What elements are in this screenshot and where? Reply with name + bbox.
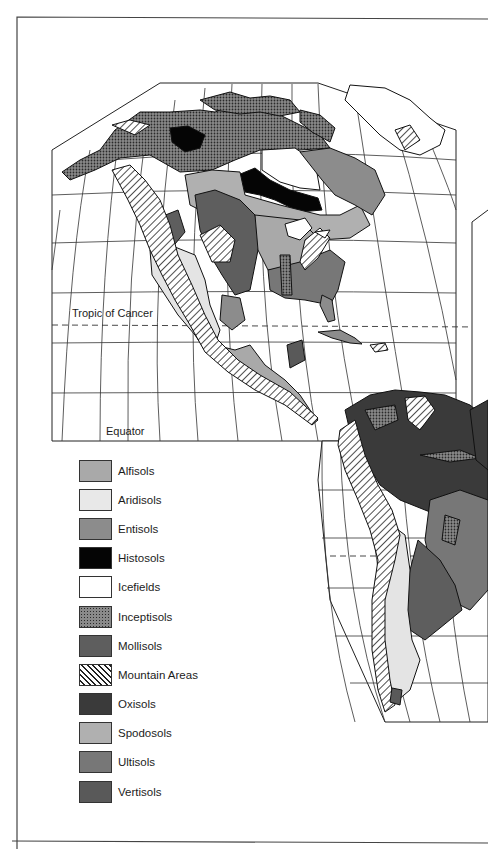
legend-item-aridisols: Aridisols (79, 485, 259, 514)
inceptisols-swatch (79, 606, 112, 628)
aridisols-swatch (79, 489, 112, 511)
legend-item-histosols: Histosols (79, 544, 259, 573)
legend-label: Mollisols (118, 640, 162, 652)
legend-item-alfisols: Alfisols (79, 456, 259, 485)
atlantic-panel-edge (472, 210, 488, 430)
legend-item-entisols: Entisols (79, 514, 259, 543)
legend-label: Spodosols (118, 727, 172, 739)
entisols-swatch (79, 518, 112, 540)
legend-item-icefields: Icefields (79, 573, 259, 602)
legend-label: Alfisols (118, 465, 154, 477)
icefields-swatch (79, 576, 112, 598)
legend-item-ultisols: Ultisols (79, 748, 259, 777)
vertisols-swatch (79, 781, 112, 803)
legend-item-mollisols: Mollisols (79, 631, 259, 660)
legend-label: Icefields (118, 581, 160, 593)
alfisols-swatch (79, 460, 112, 482)
mollisols-swatch (79, 635, 112, 657)
legend-label: Entisols (118, 523, 158, 535)
legend-label: Oxisols (118, 698, 156, 710)
map-page: Tropic of Cancer Equator Alfisols Aridis… (0, 0, 488, 849)
histosols-swatch (79, 547, 112, 569)
legend-label: Mountain Areas (118, 669, 198, 681)
legend-item-inceptisols: Inceptisols (79, 602, 259, 631)
legend-label: Histosols (118, 552, 165, 564)
ultisols-swatch (79, 751, 112, 773)
tropic-of-cancer-label: Tropic of Cancer (72, 307, 153, 319)
legend: Alfisols Aridisols Entisols Histosols Ic… (79, 456, 259, 806)
legend-label: Vertisols (118, 786, 161, 798)
legend-label: Inceptisols (118, 611, 172, 623)
oxisols-swatch (79, 693, 112, 715)
legend-item-vertisols: Vertisols (79, 777, 259, 806)
equator-label: Equator (106, 425, 145, 437)
legend-item-mountain-areas: Mountain Areas (79, 660, 259, 689)
legend-label: Aridisols (118, 494, 161, 506)
mountain-areas-swatch (79, 664, 112, 686)
spodosols-swatch (79, 722, 112, 744)
legend-item-spodosols: Spodosols (79, 719, 259, 748)
legend-item-oxisols: Oxisols (79, 690, 259, 719)
legend-label: Ultisols (118, 756, 155, 768)
page-border-bottom (12, 841, 488, 843)
